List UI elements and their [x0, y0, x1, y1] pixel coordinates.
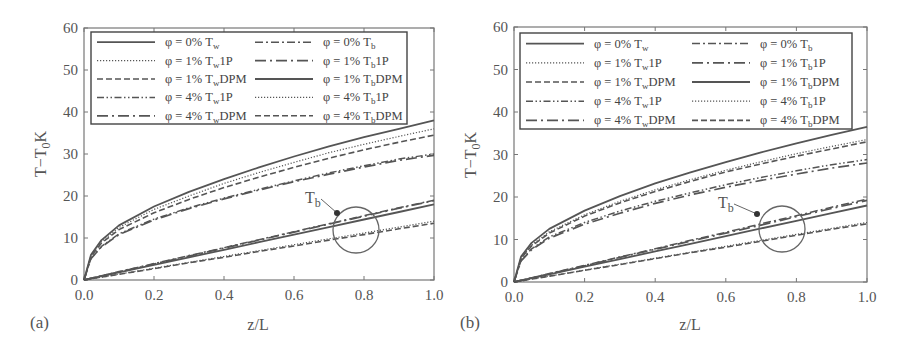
legend-entry: φ = 1% TbDPM: [323, 72, 403, 88]
y-tick-label: 50: [493, 62, 508, 78]
series-line: [514, 127, 867, 282]
annotation-circle: [759, 206, 805, 252]
y-tick-label: 40: [63, 104, 78, 120]
annotation-dot: [754, 211, 760, 217]
x-axis-label: z/L: [247, 316, 268, 333]
series-line: [84, 155, 434, 280]
x-tick-label: 1.0: [858, 289, 877, 305]
x-axis-label: z/L: [679, 316, 700, 333]
series-line: [84, 129, 434, 280]
series-line: [514, 199, 867, 282]
y-tick-label: 20: [493, 189, 508, 205]
legend-entry: φ = 1% TbDPM: [760, 75, 840, 91]
series-line: [514, 206, 867, 283]
legend-entry: φ = 4% Tb1P: [323, 90, 389, 106]
legend-entry: φ = 4% Tw1P: [594, 94, 662, 110]
series-line: [514, 160, 867, 282]
y-tick-label: 10: [63, 230, 78, 246]
legend-entry: φ = 1% Tw1P: [594, 56, 662, 72]
y-axis-label: T−T0K: [32, 130, 53, 177]
annotation-leader: [321, 199, 337, 213]
legend-entry: φ = 1% TwDPM: [594, 75, 676, 91]
x-tick-label: 1.0: [425, 287, 444, 303]
annotation-dot: [334, 210, 340, 216]
chart-panel-b: 01020304050600.00.20.40.60.81.0φ = 0% Tw…: [460, 19, 876, 333]
y-tick-label: 60: [493, 19, 508, 35]
legend-entry: φ = 4% TwDPM: [165, 109, 247, 125]
legend-entry: φ = 4% TwDPM: [594, 113, 676, 129]
legend-entry: φ = 1% Tw1P: [165, 54, 233, 70]
annotation-label: Tb: [305, 189, 321, 210]
legend-entry: φ = 0% Tb: [760, 37, 813, 53]
y-tick-label: 0: [71, 272, 79, 288]
y-tick-label: 30: [63, 146, 78, 162]
panel-label: (a): [30, 313, 49, 332]
x-tick-label: 0.0: [505, 289, 524, 305]
x-tick-label: 0.4: [215, 287, 234, 303]
legend-entry: φ = 4% Tb1P: [760, 94, 826, 110]
series-line: [514, 224, 867, 282]
legend-entry: φ = 4% TbDPM: [323, 109, 403, 125]
y-tick-label: 60: [63, 20, 78, 36]
y-tick-label: 0: [501, 274, 509, 290]
series-line: [84, 135, 434, 280]
x-tick-label: 0.2: [145, 287, 164, 303]
annotation-leader: [734, 204, 757, 214]
annotation-label: Tb: [718, 194, 734, 215]
x-tick-label: 0.6: [716, 289, 735, 305]
y-axis-label: T−T0K: [462, 131, 483, 178]
y-tick-label: 40: [493, 104, 508, 120]
series-line: [514, 163, 867, 282]
chart-panel-a: 01020304050600.00.20.40.60.81.0φ = 0% Tw…: [30, 20, 443, 333]
legend-entry: φ = 0% Tw: [594, 37, 649, 53]
legend-entry: φ = 0% Tw: [165, 35, 220, 51]
y-tick-label: 10: [493, 232, 508, 248]
x-tick-label: 0.6: [285, 287, 304, 303]
annotation-circle: [333, 207, 379, 253]
y-tick-label: 30: [493, 147, 508, 163]
legend-entry: φ = 1% TwDPM: [165, 72, 247, 88]
legend-entry: φ = 4% Tw1P: [165, 90, 233, 106]
legend-entry: φ = 1% Tb1P: [760, 56, 826, 72]
legend-entry: φ = 4% TbDPM: [760, 113, 840, 129]
x-tick-label: 0.0: [75, 287, 94, 303]
panel-label: (b): [460, 313, 480, 332]
legend-entry: φ = 1% Tb1P: [323, 54, 389, 70]
series-line: [514, 223, 867, 283]
x-tick-label: 0.8: [787, 289, 806, 305]
x-tick-label: 0.8: [355, 287, 374, 303]
series-line: [84, 221, 434, 280]
figure: 01020304050600.00.20.40.60.81.0φ = 0% Tw…: [0, 0, 905, 353]
x-tick-label: 0.2: [575, 289, 594, 305]
legend-entry: φ = 0% Tb: [323, 35, 376, 51]
x-tick-label: 0.4: [646, 289, 665, 305]
series-line: [84, 120, 434, 280]
y-tick-label: 50: [63, 62, 78, 78]
y-tick-label: 20: [63, 188, 78, 204]
series-line: [84, 223, 434, 280]
